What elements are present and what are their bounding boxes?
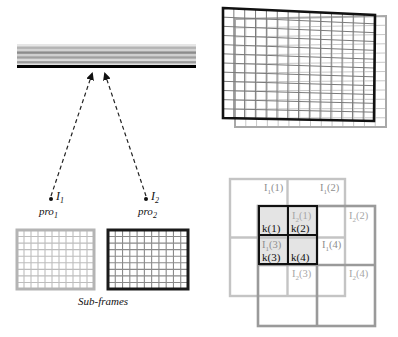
bar-stripe: [17, 61, 196, 64]
bar-stripe: [17, 49, 196, 52]
k-label-2: k(2): [291, 222, 310, 235]
pro-label: pro2: [137, 205, 157, 220]
bar-stripe: [17, 56, 196, 59]
projection-arrows: [51, 74, 146, 196]
bar-stripe: [17, 59, 196, 62]
pixel-overlap-grid: I1(1)I1(2)I1(3)I1(4)I2(1)I2(2)I2(3)I2(4)…: [230, 179, 375, 326]
overlap-frames: [223, 8, 386, 127]
bar-stripe: [17, 54, 196, 57]
frame-border: [108, 230, 188, 289]
projector-2: I2 pro2: [137, 189, 159, 220]
i2-label-4: I2(4): [349, 268, 369, 282]
arrow-projector-2: [105, 74, 146, 196]
projector-dot: [144, 197, 148, 201]
i1-label-1: I1(1): [264, 182, 284, 196]
bar-base-line: [17, 65, 196, 68]
subframes-caption: Sub-frames: [78, 295, 128, 307]
subframe-1: [17, 230, 94, 289]
k-label-3: k(3): [262, 251, 281, 264]
i2-label-2: I2(2): [349, 210, 369, 224]
frame-border: [17, 230, 94, 289]
k-label-1: k(1): [262, 222, 281, 235]
projector-label: I2: [150, 189, 159, 205]
k-label-4: k(4): [291, 251, 310, 264]
bar-stripe: [17, 46, 196, 49]
pro-label: pro1: [38, 205, 58, 220]
arrow-projector-1: [51, 74, 92, 196]
bar-stripe: [17, 51, 196, 54]
projector-label: I1: [55, 189, 64, 205]
diagram-canvas: I1 pro1 I2 pro2 Sub-frames I1(1)I1(2)I1(…: [0, 0, 398, 337]
subframe-2: [108, 230, 188, 289]
bar-stripe: [17, 44, 196, 47]
projector-dot: [49, 197, 53, 201]
i2-label-3: I2(3): [292, 268, 312, 282]
projector-1: I1 pro1: [38, 189, 64, 220]
i1-label-4: I1(4): [322, 239, 342, 253]
scanner-bar: [17, 44, 196, 68]
i1-label-2: I1(2): [320, 182, 340, 196]
